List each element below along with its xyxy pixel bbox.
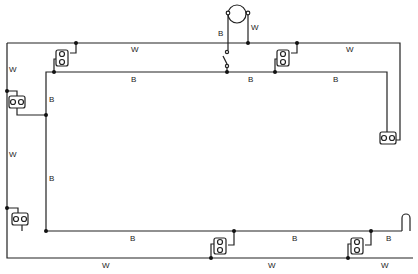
wire-label-b-bot-1: B [130, 235, 135, 243]
wire-label-b-bot-2: B [292, 235, 297, 243]
wire-label-b-mid-1: B [131, 76, 136, 84]
junction-dots [5, 41, 373, 260]
wire-w-left [7, 43, 413, 258]
wiring-diagram [0, 0, 418, 274]
wire-label-b-mid-3: B [333, 76, 338, 84]
wire-label-w-bot-3: W [381, 262, 389, 270]
wire-label-w-top-1: W [131, 46, 139, 54]
terminal-loop-icon [402, 214, 410, 231]
wire-label-w-left-1: W [9, 66, 17, 74]
lamp-socket-icon [211, 231, 234, 258]
switch-icon [223, 50, 229, 72]
lamp-socket-icon [54, 43, 76, 72]
wire-b-mid [46, 72, 387, 231]
lamp-socket-icon [7, 91, 46, 115]
wire-label-b-motor: B [218, 30, 223, 38]
lamp-socket-icon [7, 208, 28, 231]
wire-label-b-mid-2: B [248, 76, 253, 84]
wire-label-w-left-2: W [9, 151, 17, 159]
wire-label-b-left-2: B [49, 175, 54, 183]
wire-label-w-motor: W [251, 24, 259, 32]
wire-label-b-bot-3: B [386, 235, 391, 243]
wire-label-w-bot-1: W [102, 262, 110, 270]
lamp-socket-icon [275, 43, 297, 72]
lamp-socket-icon [348, 231, 371, 258]
lamp-socket-icon [380, 132, 396, 144]
wire-label-w-bot-2: W [268, 262, 276, 270]
wire-label-b-left-1: B [49, 96, 54, 104]
wire-label-w-top-2: W [346, 46, 354, 54]
